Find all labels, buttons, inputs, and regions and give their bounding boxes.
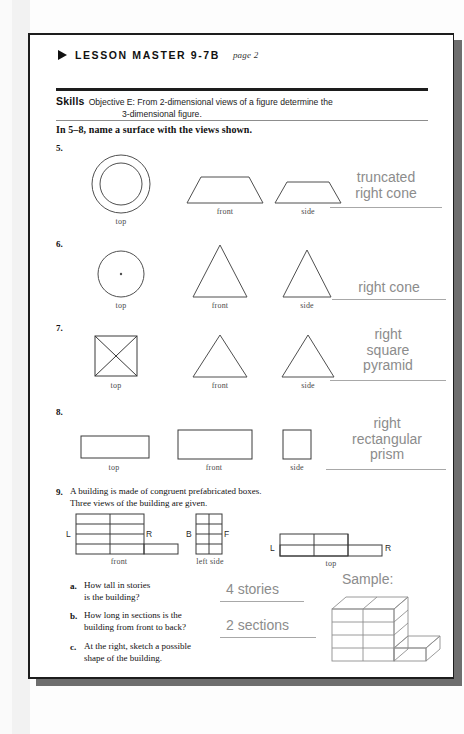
problem-9-stem-line1: A building is made of congruent prefabri…: [70, 486, 261, 496]
rectangle-wide-figure: [175, 427, 261, 461]
problem-9-stem-line2: Three views of the building are given.: [70, 498, 207, 508]
problem-5-front-label: front: [185, 207, 265, 216]
problem-8-answer-line3: prism: [370, 446, 404, 462]
rectangle-tall-figure: [280, 427, 326, 461]
triangle-figure: [185, 243, 255, 299]
sample-label: Sample:: [342, 571, 393, 587]
triangle-bullet-icon: [58, 50, 67, 60]
problem-9-front-label: front: [94, 557, 144, 566]
triangle-figure: [275, 248, 339, 299]
problem-7-answer-line1: right: [374, 326, 401, 342]
problem-9-top-label: top: [308, 559, 354, 568]
problem-5-view-front: front: [185, 175, 265, 216]
top-view-left-marker: L: [270, 543, 275, 553]
problem-9-number: 9.: [56, 487, 63, 497]
part-c-line2: shape of the building.: [84, 653, 162, 663]
skills-label: Skills: [56, 95, 85, 107]
problem-5-top-label: top: [86, 217, 156, 226]
problem-6-front-label: front: [185, 301, 255, 310]
skills-rule-bottom: [56, 120, 428, 121]
front-view-right-marker: R: [146, 529, 152, 539]
problem-9-stem: A building is made of congruent prefabri…: [70, 486, 370, 509]
problem-8-side-label: side: [280, 463, 314, 472]
sample-sketch: [318, 591, 446, 679]
problem-6-view-side: side: [275, 248, 339, 310]
lesson-master-title: LESSON MASTER 9-7B: [75, 49, 220, 61]
problem-6-side-label: side: [275, 301, 339, 310]
isometric-boxes-figure: [318, 591, 446, 679]
problem-8-answer-rule: [326, 469, 446, 470]
part-b-line1: How long in sections is the: [84, 610, 182, 620]
rectangle-wide-figure: [78, 433, 158, 461]
problem-6-answer-rule: [332, 299, 446, 300]
scan-left-edge: [0, 0, 12, 734]
part-b-question: How long in sections is the building fro…: [84, 610, 228, 634]
skills-objective-line1: Objective E: From 2-dimensional views of…: [89, 97, 333, 107]
problem-7-view-front: front: [185, 333, 255, 390]
problem-7-side-label: side: [275, 381, 341, 390]
problem-8-front-label: front: [175, 463, 253, 472]
problem-6-answer: right cone: [334, 280, 444, 296]
worksheet-page: LESSON MASTER 9-7B page 2 Skills Objecti…: [28, 33, 454, 679]
part-a-answer-rule: [220, 601, 304, 602]
part-c-question: At the right, sketch a possible shape of…: [84, 641, 244, 665]
problem-7-front-label: front: [185, 381, 255, 390]
problem-5-answer-line1: truncated: [357, 169, 415, 185]
part-c-letter: c.: [70, 642, 76, 652]
part-a-line1: How tall in stories: [84, 580, 150, 590]
part-a-line2: is the building?: [84, 592, 140, 602]
problem-7-number: 7.: [56, 323, 63, 333]
front-view-left-marker: L: [66, 529, 71, 539]
instruction-text: In 5–8, name a surface with the views sh…: [56, 124, 252, 135]
problem-8-top-label: top: [78, 463, 150, 472]
part-a-letter: a.: [70, 581, 77, 591]
problem-8-answer: right rectangular prism: [326, 416, 448, 463]
part-b-letter: b.: [70, 611, 77, 621]
problem-6-view-top: top: [92, 249, 150, 310]
part-a-answer: 4 stories: [226, 581, 279, 597]
left-side-view-right-marker: F: [224, 529, 229, 539]
problem-5-side-label: side: [273, 207, 343, 216]
problem-7-answer: right square pyramid: [332, 327, 444, 374]
concentric-circles-figure: [86, 153, 156, 215]
problem-8-answer-line2: rectangular: [352, 431, 422, 447]
problem-5-number: 5.: [56, 143, 63, 153]
page-note: page 2: [233, 50, 258, 60]
problem-8-view-top: top: [78, 433, 158, 472]
part-b-line2: building from front to back?: [84, 622, 186, 632]
trapezoid-figure: [185, 175, 265, 205]
problem-9-view-top: L R top: [266, 532, 408, 566]
problem-5-view-top: top: [86, 153, 156, 226]
problem-9-view-leftside: B F left side: [182, 512, 244, 566]
part-c-line1: At the right, sketch a possible: [84, 641, 191, 651]
problem-5-answer-line2: right cone: [355, 185, 416, 201]
problem-8-view-front: front: [175, 427, 261, 472]
part-a-question: How tall in stories is the building?: [84, 580, 214, 604]
problem-6-number: 6.: [56, 239, 63, 249]
problem-8-answer-line1: right: [373, 415, 400, 431]
problem-8-number: 8.: [56, 407, 63, 417]
circle-with-center-dot-figure: [92, 249, 150, 299]
top-view-right-marker: R: [385, 543, 391, 553]
problem-7-answer-rule: [330, 380, 446, 381]
problem-6-answer-line1: right cone: [358, 279, 419, 295]
lesson-master-header: LESSON MASTER 9-7B page 2: [58, 49, 258, 61]
problem-5-answer: truncated right cone: [330, 170, 442, 201]
part-b-answer: 2 sections: [226, 617, 289, 633]
square-with-diagonals-figure: [92, 333, 148, 379]
skills-band: Skills Objective E: From 2-dimensional v…: [56, 91, 432, 120]
part-b-answer-rule: [220, 637, 316, 638]
problem-6-top-label: top: [92, 301, 150, 310]
problem-9-leftside-label: left side: [188, 557, 232, 566]
skills-objective-line2: 3-dimensional figure.: [56, 109, 432, 120]
problem-7-answer-line3: pyramid: [363, 357, 413, 373]
problem-5-answer-rule: [330, 207, 442, 208]
problem-7-view-top: top: [92, 333, 148, 390]
problem-9-view-front: L R front: [64, 512, 192, 566]
problem-6-view-front: front: [185, 243, 255, 310]
problem-8-view-side: side: [280, 427, 326, 472]
problem-7-top-label: top: [92, 381, 140, 390]
left-side-view-left-marker: B: [186, 529, 192, 539]
problem-7-answer-line2: square: [367, 342, 410, 358]
triangle-figure: [185, 333, 255, 379]
